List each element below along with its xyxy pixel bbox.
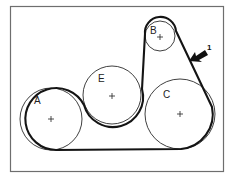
pulley-E: E: [83, 66, 141, 124]
pulley-C-label: C: [163, 89, 170, 100]
pulley-E-label: E: [98, 73, 105, 84]
pulley-A: A: [20, 88, 82, 150]
callout-arrow-icon: [189, 50, 208, 62]
belt-routing-diagram: A E B C 1: [0, 0, 232, 177]
callout-1-number: 1: [207, 43, 212, 52]
pulley-B: B: [145, 21, 175, 51]
pulley-B-label: B: [150, 25, 157, 36]
serpentine-belt: [25, 17, 212, 150]
callout-1: 1: [189, 43, 212, 62]
